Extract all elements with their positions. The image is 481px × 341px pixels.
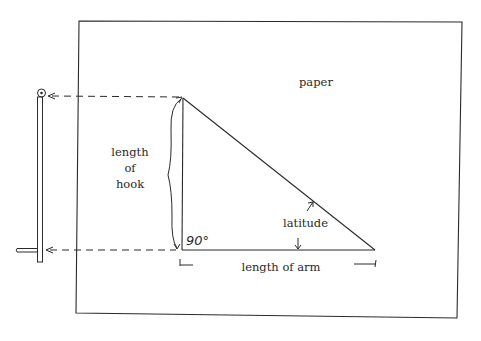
diagram: paper length of hook 90° latitude length… bbox=[0, 0, 481, 341]
staff bbox=[16, 89, 45, 262]
hook-label-line3: hook bbox=[116, 177, 145, 191]
staff-rod bbox=[38, 97, 43, 262]
latitude-label: latitude bbox=[283, 216, 328, 230]
staff-peg bbox=[16, 249, 37, 253]
arm-label: length of arm bbox=[241, 260, 320, 274]
hook-brace bbox=[168, 99, 181, 248]
right-angle-label: 90° bbox=[186, 233, 209, 248]
hook-label-line1: length bbox=[111, 145, 149, 159]
hook-side bbox=[182, 98, 183, 250]
latitude-arrow-hypotenuse-icon bbox=[307, 202, 313, 211]
arm-start-tick bbox=[180, 259, 193, 266]
latitude-arrow-arm-icon bbox=[295, 238, 301, 249]
paper-label: paper bbox=[299, 75, 333, 89]
hypotenuse bbox=[183, 98, 375, 250]
top-dashed-line bbox=[52, 96, 180, 97]
brace-bottom-arrow-icon bbox=[174, 244, 180, 249]
triangle bbox=[182, 98, 375, 250]
hook-label-line2: of bbox=[124, 161, 136, 175]
arm-end-tick bbox=[354, 260, 376, 267]
staff-eyelet-center bbox=[40, 92, 43, 95]
